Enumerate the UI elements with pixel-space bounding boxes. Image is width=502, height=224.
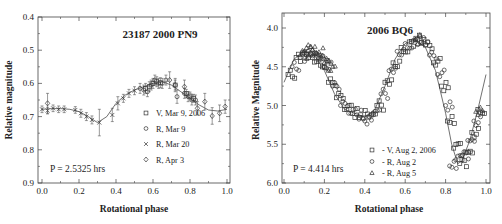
y-tick-label: 0.8 <box>23 145 35 155</box>
legend-label: R, Apr 3 <box>156 156 184 165</box>
diamond-marker-icon <box>144 157 148 162</box>
y-tick-label: 0.7 <box>23 112 35 122</box>
data-point <box>299 59 303 63</box>
legend-label: V, Mar 9, 2006 <box>156 109 205 118</box>
data-point <box>359 108 363 112</box>
data-point <box>448 100 452 104</box>
legend-item: - V, Aug 2, 2006 <box>370 146 436 155</box>
circle-marker-icon <box>144 127 148 131</box>
data-point <box>440 84 444 88</box>
y-axis-label: Relative magnitude <box>4 61 14 140</box>
y-tick-label: 0.5 <box>23 45 35 55</box>
legend: - V, Aug 2, 2006- R, Aug 2- R, Aug 5 <box>370 146 436 178</box>
legend-item: - R, Aug 2 <box>370 158 416 167</box>
legend-label: R, Mar 9 <box>156 125 185 134</box>
x-tick-label: 0.6 <box>147 186 159 196</box>
data-point <box>382 108 386 112</box>
error-bar <box>174 78 177 91</box>
y-tick-label: 0.6 <box>23 78 35 88</box>
data-point <box>454 166 458 170</box>
legend-item: V, Mar 9, 2006 <box>144 109 205 118</box>
error-bar <box>224 100 227 113</box>
y-axis-label: Relative Magnitude <box>251 60 261 140</box>
data-point <box>444 80 448 84</box>
y-tick-label: 0.4 <box>23 12 35 22</box>
square-marker-icon <box>144 111 148 115</box>
data-point <box>337 87 341 91</box>
data-point <box>442 89 446 93</box>
data-point <box>386 97 390 101</box>
figure-canvas: 0.00.20.40.60.81.00.40.50.60.70.80.92318… <box>0 0 502 224</box>
legend-item: R, Mar 9 <box>144 125 185 134</box>
period-annotation: P = 2.5325 hrs <box>50 164 105 174</box>
plot-frame <box>38 17 230 183</box>
y-tick-label: 4.5 <box>267 62 279 72</box>
x-tick-label: 0.2 <box>73 186 84 196</box>
x-tick-label: 0.8 <box>440 186 452 196</box>
data-point <box>383 91 387 95</box>
legend-item: - R, Aug 5 <box>370 169 416 178</box>
y-tick-label: 6.0 <box>267 178 279 188</box>
data-point <box>313 44 317 48</box>
data-point <box>450 114 454 118</box>
data-point <box>365 122 369 126</box>
error-bar <box>168 72 171 89</box>
data-point <box>444 104 448 108</box>
data-point <box>321 46 325 50</box>
data-point <box>476 121 480 125</box>
legend-item: R, Mar 20 <box>144 140 189 149</box>
legend-label: R, Mar 20 <box>156 140 189 149</box>
data-point <box>391 71 395 75</box>
x-tick-label: 1.0 <box>221 186 233 196</box>
x-axis-label: Rotational phase <box>355 204 423 214</box>
data-point <box>398 59 402 63</box>
data-series <box>40 87 137 136</box>
data-point <box>369 118 373 122</box>
x-tick-label: 0.4 <box>110 186 122 196</box>
y-tick-label: 5.0 <box>267 101 279 111</box>
x-tick-label: 0.4 <box>359 186 371 196</box>
data-point <box>379 103 383 107</box>
error-bar <box>218 105 221 122</box>
chart-title: 23187 2000 PN9 <box>122 28 198 40</box>
chart-2006-bq6: 0.00.20.40.60.81.04.04.55.05.56.02006 BQ… <box>251 13 492 214</box>
error-bar <box>46 93 49 113</box>
triangle-marker-icon <box>370 171 374 175</box>
legend-label: - R, Aug 2 <box>382 158 416 167</box>
data-point <box>479 115 483 119</box>
legend-label: - R, Aug 5 <box>382 169 416 178</box>
y-tick-label: 4.0 <box>267 23 279 33</box>
data-point <box>464 165 468 169</box>
data-point <box>466 157 470 161</box>
y-tick-label: 5.5 <box>267 139 279 149</box>
data-point <box>446 108 450 112</box>
data-point <box>390 78 394 82</box>
x-tick-label: 0.0 <box>278 186 290 196</box>
data-point <box>450 105 454 109</box>
legend-label: - V, Aug 2, 2006 <box>382 146 436 155</box>
square-marker-icon <box>370 148 374 152</box>
x-tick-label: 0.8 <box>184 186 196 196</box>
legend-item: R, Apr 3 <box>144 156 184 165</box>
error-bar <box>176 90 179 103</box>
x-tick-label: 0.0 <box>36 186 48 196</box>
data-point <box>452 122 456 126</box>
data-point <box>472 119 476 123</box>
legend: V, Mar 9, 2006R, Mar 9R, Mar 20R, Apr 3 <box>144 109 205 165</box>
x-tick-label: 0.2 <box>319 186 330 196</box>
chart-title: 2006 BQ6 <box>367 24 414 36</box>
circle-marker-icon <box>370 160 374 164</box>
x-tick-label: 1.0 <box>480 186 492 196</box>
x-axis-label: Rotational phase <box>100 204 168 214</box>
y-tick-label: 0.9 <box>23 178 35 188</box>
period-annotation: P = 4.414 hrs <box>293 164 344 174</box>
x-tick-label: 0.6 <box>400 186 412 196</box>
data-point <box>442 68 446 72</box>
data-point <box>446 86 450 90</box>
error-bar <box>161 78 164 88</box>
cross-marker-icon <box>144 142 148 146</box>
chart-23187-2000-pn9: 0.00.20.40.60.81.00.40.50.60.70.80.92318… <box>4 12 233 214</box>
data-point <box>440 71 444 75</box>
